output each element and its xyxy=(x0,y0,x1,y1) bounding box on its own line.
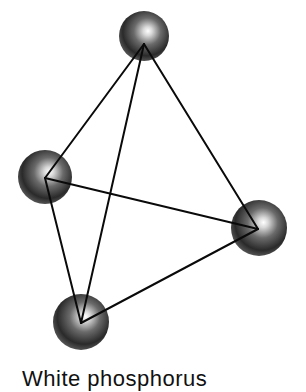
diagram-caption: White phosphorus xyxy=(22,366,207,392)
bonds xyxy=(45,44,258,323)
atom-sphere-top xyxy=(119,11,169,61)
bond-top-right xyxy=(144,44,258,229)
atom-sphere-right xyxy=(231,200,287,256)
bond-left-right xyxy=(45,178,258,229)
bond-bottom-right xyxy=(81,229,258,323)
